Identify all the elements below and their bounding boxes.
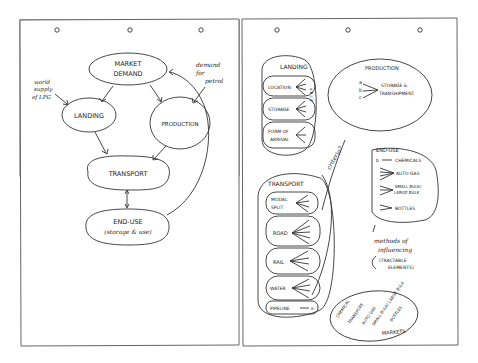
methods-label: methods of (374, 237, 410, 245)
group-title: PRODUCTION (365, 65, 399, 71)
tractable-label: (TRACTABLE (379, 258, 407, 263)
group-title: LANDING (280, 63, 308, 70)
node-label: LANDING (74, 112, 104, 120)
annotation-text: demand (196, 61, 221, 68)
annotation-text: supply (34, 86, 53, 93)
item-label: STORAGE & (381, 83, 408, 88)
annotation-text: petrol (205, 77, 223, 85)
node-label: MARKET (115, 60, 142, 68)
item-label: LARGE BULK (394, 190, 420, 195)
node-label: PRODUCTION (162, 121, 199, 127)
annotation-text: world (34, 79, 50, 85)
node-label: (storage & use) (104, 228, 152, 236)
left-page: MARKET DEMAND LANDING PRODUCTION TRANSPO… (20, 19, 239, 346)
item-label: BOTTLES (395, 206, 415, 211)
item-label: WATER (270, 286, 286, 291)
item-label: ROAD (273, 230, 288, 236)
tractable-label: ELEMENTS) (388, 265, 414, 270)
annotation-text: of LPG (32, 94, 51, 101)
item-letter: b (359, 87, 362, 93)
item-label: RAIL (273, 259, 284, 265)
item-letters: e (311, 306, 314, 311)
item-label: STORAGE (268, 107, 290, 112)
group-title: END-USE (376, 147, 399, 153)
item-label: FORM OF (268, 129, 289, 134)
node-label: DEMAND (113, 70, 142, 78)
item-label: AUTO GAS (396, 171, 420, 176)
item-label: MODAL (271, 197, 288, 202)
node-label: TRANSPORT (108, 170, 148, 178)
item-label: TRANSHIPMENT (378, 91, 415, 96)
item-label: SMALL BULK/ (395, 184, 422, 189)
item-letter: c (359, 94, 362, 100)
annotation-text: for (195, 69, 206, 77)
item-label: ARRIVAL (270, 137, 290, 142)
item-label: PIPELINE (270, 306, 290, 311)
node-label: END-USE (113, 218, 142, 226)
item-label: LOCATION (268, 85, 291, 90)
methods-label: influencing (378, 246, 412, 254)
group-title: TRANSPORT (267, 180, 304, 187)
item-label: SPLIT (271, 205, 283, 210)
right-page: LANDING LOCATION a b c d STORAGE FORM OF… (242, 18, 458, 346)
item-label: CHEMICALS (395, 158, 421, 163)
item-letters: b (376, 158, 379, 163)
item-letter: a (359, 79, 362, 85)
diagram-canvas: MARKET DEMAND LANDING PRODUCTION TRANSPO… (0, 0, 478, 363)
